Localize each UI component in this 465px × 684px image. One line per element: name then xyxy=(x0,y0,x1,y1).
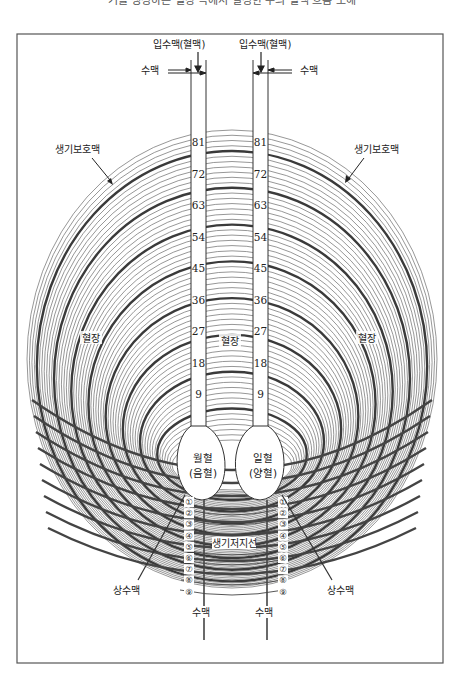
tube-scale-value: 36 xyxy=(192,294,206,306)
tube-scale-value: 36 xyxy=(254,294,268,306)
left-protect-pointer xyxy=(92,158,110,180)
center-plasma-label: 혈장 xyxy=(221,335,239,347)
tube-scale-value: 27 xyxy=(192,325,205,337)
tube-scale-value: 72 xyxy=(192,168,205,180)
left-bulb-label-2: (음혈) xyxy=(189,467,217,479)
tube-scale-value: 9 xyxy=(257,388,264,400)
tube-scale-value: 45 xyxy=(254,262,267,274)
circled-band-number: ④ xyxy=(279,531,287,541)
right-protect-pointer xyxy=(349,158,364,178)
tube-scale-value: 81 xyxy=(192,136,205,148)
tube-scale-value: 54 xyxy=(254,231,268,243)
left-sumaek-label: 수맥 xyxy=(141,65,159,76)
left-bulb-label-1: 월혈 xyxy=(193,452,213,464)
circled-band-number: ③ xyxy=(185,519,193,529)
bottom-right-sumaek-label: 수맥 xyxy=(255,607,273,618)
bottom-left-sumaek-label: 수맥 xyxy=(192,607,210,618)
circled-band-number: ⑥ xyxy=(279,553,287,563)
tube-scale-value: 72 xyxy=(254,168,267,180)
circled-band-number: ⑧ xyxy=(185,575,193,585)
right-plasma-label: 혈장 xyxy=(358,332,376,344)
left-tube-fill xyxy=(191,60,206,428)
tube-scale-value: 27 xyxy=(254,325,267,337)
tube-scale-value: 18 xyxy=(192,357,205,369)
circled-band-number: ⑤ xyxy=(279,542,287,552)
tube-scale-value: 54 xyxy=(192,231,206,243)
tube-scale-value: 45 xyxy=(192,262,205,274)
tube-scale-value: 63 xyxy=(254,199,267,211)
tube-scale-value: 63 xyxy=(192,199,205,211)
top-left-inflow-label: 입수맥(혈맥) xyxy=(153,38,206,50)
circled-band-number: ⑧ xyxy=(279,575,287,585)
concentric-rings xyxy=(27,130,437,595)
circled-band-number: ⑥ xyxy=(185,553,193,563)
circled-band-number: ③ xyxy=(279,519,287,529)
circled-band-number: ⑦ xyxy=(185,564,193,574)
circled-band-number: ② xyxy=(279,508,287,518)
left-plasma-label: 혈장 xyxy=(82,332,100,344)
right-bulb-label-1: 일혈 xyxy=(253,452,273,464)
right-sumaek-label: 수맥 xyxy=(300,65,318,76)
top-right-inflow-label: 입수맥(혈맥) xyxy=(239,38,292,50)
left-tube-scale: 81726354453627189 xyxy=(192,136,206,400)
right-tube-fill xyxy=(253,60,268,428)
circled-band-number: ① xyxy=(185,497,193,507)
figure-caption: 기를 생성하는 혈장 속에서 일정한 수의 혈액 흐름 도해 xyxy=(108,0,356,7)
circled-band-number: ② xyxy=(185,508,193,518)
circled-band-number: ④ xyxy=(185,531,193,541)
right-circled-numbers: ①②③④⑤⑥⑦⑧⑨ xyxy=(278,497,288,597)
storage-line-label: 생기저지선 xyxy=(212,538,257,549)
right-protect-label: 생기보호맥 xyxy=(354,144,399,155)
circled-band-number: ⑨ xyxy=(279,587,287,597)
circled-band-number: ⑦ xyxy=(279,564,287,574)
left-circled-numbers: ①②③④⑤⑥⑦⑧⑨ xyxy=(184,497,194,597)
tube-scale-value: 9 xyxy=(195,388,202,400)
tube-scale-value: 81 xyxy=(254,136,267,148)
circled-band-number: ⑤ xyxy=(185,542,193,552)
right-upper-sumaek-label: 상수맥 xyxy=(327,585,354,596)
left-upper-sumaek-label: 상수맥 xyxy=(113,585,140,596)
circled-band-number: ⑨ xyxy=(185,587,193,597)
left-protect-label: 생기보호맥 xyxy=(55,144,100,155)
right-tube-scale: 81726354453627189 xyxy=(254,136,268,400)
tube-scale-value: 18 xyxy=(254,357,267,369)
saenggi-diagram: 기를 생성하는 혈장 속에서 일정한 수의 혈액 흐름 도해 xyxy=(0,0,465,684)
right-bulb-label-2: (양혈) xyxy=(249,467,277,479)
